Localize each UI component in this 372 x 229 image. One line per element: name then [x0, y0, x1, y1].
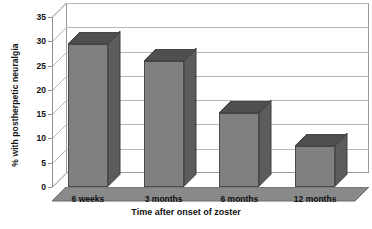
bar-side-face [108, 31, 121, 187]
plot-area [52, 17, 355, 187]
gridline-riser [52, 3, 68, 19]
x-tick-mark [279, 187, 280, 191]
y-tick-label: 10 [24, 134, 46, 143]
y-tick-mark [48, 187, 52, 188]
x-tick-mark [128, 187, 129, 191]
bar-front-face [144, 61, 184, 187]
gridline-riser [52, 124, 68, 140]
y-tick-label: 20 [24, 86, 46, 95]
x-axis-title: Time after onset of zoster [0, 207, 372, 217]
x-category-label: 3 months [132, 194, 196, 204]
gridline-riser [52, 173, 68, 189]
gridline-riser [52, 149, 68, 165]
y-tick-mark [48, 17, 52, 18]
x-tick-mark [204, 187, 205, 191]
bar-column [68, 32, 108, 187]
bar-front-face [219, 113, 259, 187]
bar-chart: % with postherpetic neuralgia 0510152025… [0, 0, 372, 229]
y-tick-mark [48, 41, 52, 42]
bar-top-face [219, 101, 272, 114]
bar-top-face [144, 49, 197, 62]
y-axis-title: % with postherpetic neuralgia [10, 20, 20, 190]
gridline-riser [52, 52, 68, 68]
y-tick-mark [48, 90, 52, 91]
bar-column [144, 49, 184, 187]
y-tick-mark [48, 66, 52, 67]
y-tick-label: 25 [24, 62, 46, 71]
bar-top-face [295, 134, 348, 147]
gridline-riser [52, 100, 68, 116]
x-tick-mark [355, 187, 356, 191]
bar-front-face [295, 146, 335, 187]
x-category-label: 6 months [207, 194, 271, 204]
gridline [66, 3, 369, 4]
bar-column [295, 134, 335, 187]
bar-front-face [68, 44, 108, 187]
y-tick-label: 5 [24, 159, 46, 168]
x-category-label: 6 weeks [56, 194, 120, 204]
y-tick-mark [48, 138, 52, 139]
gridline-riser [52, 76, 68, 92]
y-tick-label: 15 [24, 110, 46, 119]
y-tick-label: 35 [24, 13, 46, 22]
bar-side-face [184, 48, 197, 187]
y-tick-mark [48, 163, 52, 164]
bar-column [219, 101, 259, 187]
y-tick-mark [48, 114, 52, 115]
bar-top-face [68, 32, 121, 45]
x-category-label: 12 months [283, 194, 347, 204]
gridline [66, 27, 369, 28]
gridline-riser [52, 27, 68, 43]
y-tick-label: 30 [24, 37, 46, 46]
y-tick-label: 0 [24, 183, 46, 192]
